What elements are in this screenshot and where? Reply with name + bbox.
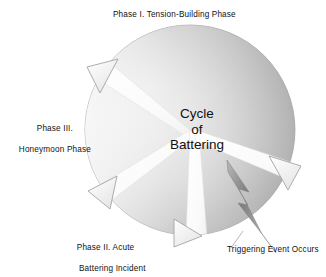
center-title-line-3: Battering — [154, 137, 240, 153]
label-phase-2-line-2: Battering Incident — [67, 264, 146, 275]
label-phase-1-tension-building: Phase I. Tension-Building Phase — [113, 10, 236, 21]
label-phase-3-line-1: Phase III. — [37, 124, 73, 133]
label-phase-2-acute-battering: Phase II. Acute Battering Incident — [67, 232, 146, 277]
label-phase-3-honeymoon: Phase III. Honeymoon Phase — [6, 113, 94, 166]
label-phase-2-line-1: Phase II. Acute — [77, 243, 135, 252]
center-title-line-2: of — [154, 122, 240, 138]
center-title: Cycle of Battering — [154, 106, 240, 153]
label-phase-3-line-2: Honeymoon Phase — [19, 145, 91, 154]
center-title-line-1: Cycle — [154, 106, 240, 122]
label-triggering-event: Triggering Event Occurs — [227, 245, 319, 256]
